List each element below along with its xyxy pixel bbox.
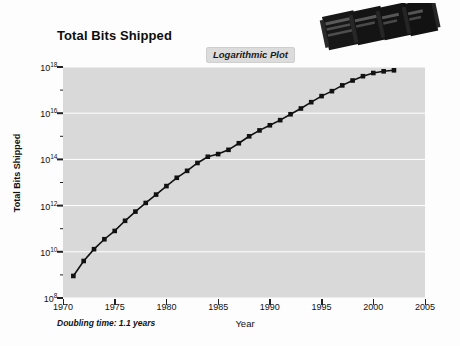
data-point-marker [164,184,169,189]
data-point-marker [226,148,231,153]
plot-svg [63,67,425,298]
data-line [73,70,394,276]
data-point-marker [371,71,376,76]
x-tick-mark [114,299,116,305]
doubling-time-footnote: Doubling time: 1.1 years [57,318,155,328]
data-point-marker [392,68,397,73]
data-point-marker [247,134,252,139]
x-tick-mark [373,299,375,305]
y-axis-title: Total Bits Shipped [12,123,22,223]
data-point-marker [216,152,221,157]
data-point-marker [133,209,138,214]
data-point-marker [112,229,117,234]
data-point-marker [268,123,273,128]
data-point-marker [102,237,107,242]
y-axis-ticks: 108 1010 1012 1014 1016 1018 [0,0,60,346]
x-tick-mark [218,299,220,305]
data-point-marker [81,259,86,264]
data-point-marker [361,74,366,79]
memory-chip-photo [318,3,458,63]
x-tick-mark [166,299,168,305]
x-tick-mark [321,299,323,305]
data-point-marker [299,106,304,111]
plot-area [63,67,425,298]
data-point-marker [350,78,355,83]
data-point-marker [257,128,262,133]
data-point-marker [340,83,345,88]
x-tick-mark [425,299,427,305]
data-point-marker [278,118,283,123]
data-point-marker [319,94,324,99]
y-axis-tick-marks [56,65,64,300]
page-title: Total Bits Shipped [57,28,172,43]
data-point-marker [237,141,242,146]
data-point-marker [185,169,190,174]
gridlines [63,67,425,298]
x-tick-mark [269,299,271,305]
data-point-marker [143,201,148,206]
data-point-marker [123,218,128,223]
data-point-marker [309,100,314,105]
data-point-marker [288,112,293,117]
data-markers [71,68,396,278]
data-point-marker [206,154,211,159]
logarithmic-plot-badge: Logarithmic Plot [206,47,295,63]
data-point-marker [330,89,335,94]
data-point-marker [195,161,200,166]
data-point-marker [71,274,76,279]
data-point-marker [174,175,179,180]
data-point-marker [92,247,97,252]
data-point-marker [154,192,159,197]
data-point-marker [381,69,386,74]
chart-figure: Total Bits Shipped Logarithmic Plot [0,0,460,346]
